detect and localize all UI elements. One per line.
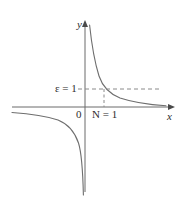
- y-axis-label: y: [77, 19, 82, 30]
- hyperbola-limit-figure: y x 0 ε = 1 N = 1: [0, 0, 185, 199]
- y-axis-arrow-icon: [82, 20, 88, 27]
- graph-canvas: [0, 0, 185, 199]
- origin-label: 0: [76, 109, 82, 120]
- curve-branch-positive: [90, 25, 166, 106]
- n-value-label: N = 1: [92, 109, 117, 120]
- curve-branch-negative: [12, 113, 83, 196]
- x-axis-label: x: [167, 111, 172, 122]
- epsilon-value-label: ε = 1: [55, 83, 77, 94]
